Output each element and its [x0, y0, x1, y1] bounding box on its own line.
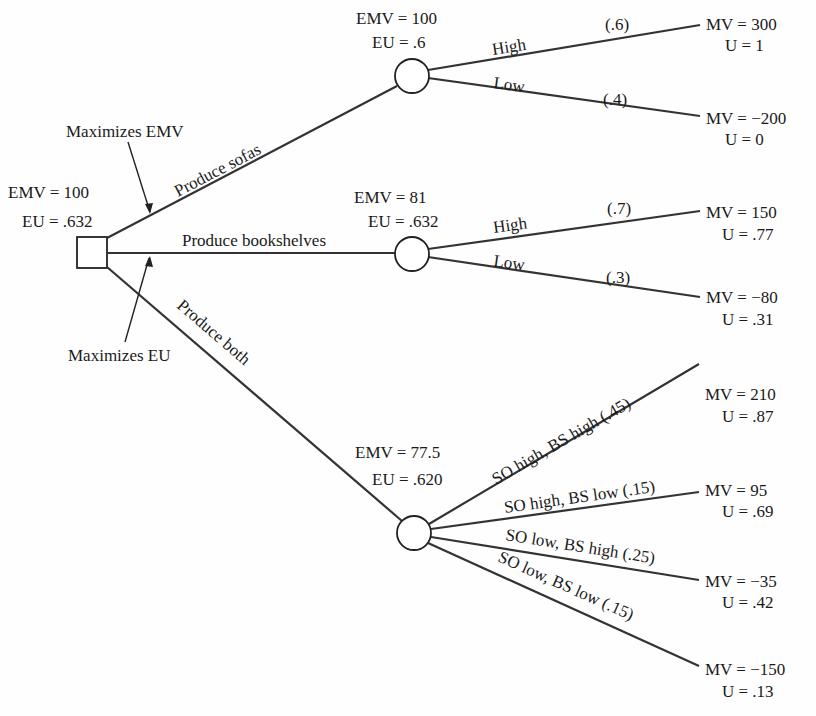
bookshelves-high-label: High — [492, 213, 529, 237]
sofas-high-prob: (.6) — [605, 15, 629, 34]
both-outcome-2-label: SO high, BS low (.15) — [503, 477, 656, 517]
branch-sofas-high — [428, 25, 700, 70]
sofas-low-mv: MV = −200 — [706, 109, 786, 128]
sofas-low-prob: (.4) — [603, 90, 627, 109]
label-produce-bookshelves: Produce bookshelves — [182, 231, 326, 250]
branch-bookshelves-high — [428, 211, 700, 249]
chance-node-both: EMV = 77.5 EU = .620 SO high, BS high (.… — [355, 364, 785, 701]
both-outcome-3-mv: MV = −35 — [705, 572, 777, 591]
both-outcome-4-u: U = .13 — [722, 682, 774, 701]
annotation-maximizes-eu: Maximizes EU — [68, 256, 170, 365]
maximizes-emv-arrow-icon — [128, 142, 150, 212]
arrowhead-icon — [145, 256, 153, 267]
bookshelves-high-u: U = .77 — [722, 225, 774, 244]
label-produce-sofas: Produce sofas — [171, 140, 264, 201]
chance-node-bookshelves: EMV = 81 EU = .632 High (.7) Low (.3) MV… — [354, 188, 778, 329]
sofas-emv: EMV = 100 — [356, 9, 437, 28]
chance-circle-icon — [395, 59, 429, 93]
both-outcome-1-label: SO high, BS high (.45) — [489, 394, 634, 489]
bookshelves-high-mv: MV = 150 — [706, 203, 777, 222]
bookshelves-high-prob: (.7) — [607, 199, 631, 218]
both-outcome-1-u: U = .87 — [722, 407, 774, 426]
arrowhead-icon — [145, 203, 153, 214]
maximizes-emv-text: Maximizes EMV — [66, 122, 184, 141]
both-outcome-2-mv: MV = 95 — [705, 481, 767, 500]
chance-circle-icon — [397, 516, 431, 550]
branch-produce-both — [107, 267, 402, 521]
bookshelves-emv: EMV = 81 — [354, 188, 427, 207]
bookshelves-low-prob: (.3) — [606, 268, 630, 287]
sofas-high-u: U = 1 — [725, 36, 764, 55]
both-eu: EU = .620 — [372, 470, 443, 489]
bookshelves-low-u: U = .31 — [722, 310, 774, 329]
bookshelves-eu: EU = .632 — [368, 212, 439, 231]
decision-tree: EMV = 100 EU = .632 Produce sofas Produc… — [0, 0, 816, 716]
both-outcome-3-u: U = .42 — [722, 593, 774, 612]
chance-node-sofas: EMV = 100 EU = .6 High (.6) Low (.4) MV … — [356, 9, 786, 149]
branch-both-so-low-bs-low — [428, 543, 699, 666]
branch-sofas-low — [428, 78, 700, 116]
decision-node: EMV = 100 EU = .632 — [8, 183, 107, 268]
both-outcome-2-u: U = .69 — [722, 502, 774, 521]
both-outcome-1-mv: MV = 210 — [705, 385, 776, 404]
both-emv: EMV = 77.5 — [355, 443, 440, 462]
sofas-high-mv: MV = 300 — [706, 15, 777, 34]
sofas-eu: EU = .6 — [372, 33, 426, 52]
maximizes-eu-text: Maximizes EU — [68, 346, 170, 365]
branch-bookshelves-low — [428, 257, 700, 297]
decision-emv: EMV = 100 — [8, 183, 89, 202]
chance-circle-icon — [395, 237, 429, 271]
sofas-low-label: Low — [492, 73, 526, 96]
bookshelves-low-label: Low — [492, 251, 526, 274]
bookshelves-low-mv: MV = −80 — [706, 288, 778, 307]
sofas-low-u: U = 0 — [725, 130, 764, 149]
decision-square-icon — [77, 237, 107, 268]
both-outcome-4-mv: MV = −150 — [705, 660, 785, 679]
decision-eu: EU = .632 — [22, 212, 93, 231]
